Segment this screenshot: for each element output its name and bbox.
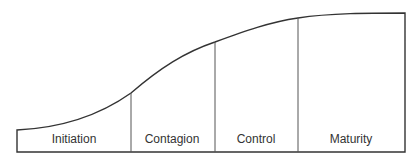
- stage-label-initiation: Initiation: [52, 132, 97, 146]
- stage-label-maturity: Maturity: [330, 132, 373, 146]
- stage-label-control: Control: [237, 132, 276, 146]
- s-curve-diagram: Initiation Contagion Control Maturity: [0, 0, 420, 161]
- stage-label-contagion: Contagion: [145, 132, 200, 146]
